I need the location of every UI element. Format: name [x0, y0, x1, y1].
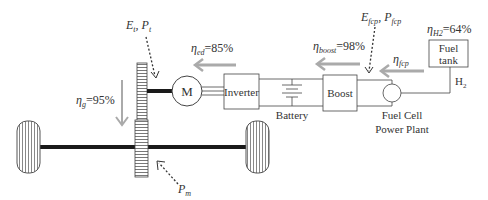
motor: M	[172, 76, 202, 106]
three-phase-wires	[202, 87, 224, 95]
fuel-tank-label-2: tank	[439, 54, 458, 66]
boost-converter: Boost	[323, 75, 357, 111]
boost-label: Boost	[327, 87, 353, 99]
eta-gear-label: ηg=95%	[76, 93, 115, 109]
powertrain-diagram: M Inverter Battery Boost Fuel Cell	[0, 0, 488, 200]
battery-label: Battery	[276, 109, 309, 121]
dc-bus	[259, 79, 323, 106]
eta-ed-label: ηed=85%	[191, 41, 233, 57]
right-wheel	[246, 121, 269, 173]
left-wheel	[17, 121, 40, 173]
mech-power-label: Pm	[177, 182, 191, 198]
gear-set	[135, 63, 148, 177]
eta-h2-label: ηH2=64%	[427, 22, 472, 38]
h2-label: H2	[455, 75, 467, 90]
traction-energy-power-label: Et, Pt	[125, 18, 152, 34]
inverter: Inverter	[224, 74, 259, 109]
motor-label: M	[181, 84, 193, 99]
fuel-cell	[383, 84, 401, 102]
fcp-energy-power-label: Efcp, Pfcp	[360, 10, 401, 26]
fuel-cell-label-2: Power Plant	[375, 123, 428, 135]
fuel-tank: Fuel tank	[429, 40, 468, 67]
eta-boost-label: ηboost=98%	[313, 39, 365, 55]
fuel-tank-label-1: Fuel	[439, 42, 459, 54]
battery-icon	[282, 79, 302, 106]
fuel-cell-label-1: Fuel Cell	[382, 109, 423, 121]
inverter-label: Inverter	[224, 86, 259, 98]
eta-fcp-label: ηfcp	[393, 52, 409, 68]
